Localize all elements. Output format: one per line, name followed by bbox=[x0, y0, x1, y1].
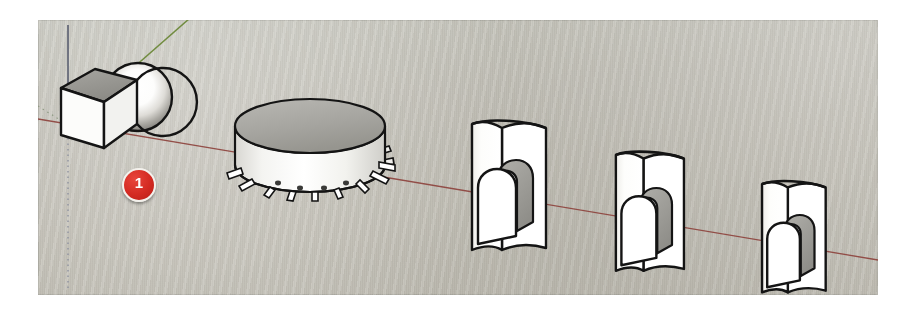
model-cube-with-sphere[interactable] bbox=[61, 63, 197, 148]
model-arch-wall-1[interactable] bbox=[472, 121, 546, 250]
callout-badge-1[interactable]: 1 bbox=[122, 168, 156, 202]
red-axis bbox=[38, 119, 878, 260]
axes-group bbox=[38, 20, 878, 292]
model-arch-wall-2[interactable] bbox=[616, 152, 684, 271]
sketchup-viewport[interactable]: 1 bbox=[38, 20, 878, 295]
arch-front-face[interactable] bbox=[767, 223, 800, 287]
sketchup-figure: 1 bbox=[0, 0, 900, 318]
model-cylinder-with-pegs[interactable] bbox=[227, 99, 395, 201]
cylinder-top-face[interactable] bbox=[235, 99, 385, 153]
model-scene[interactable] bbox=[38, 20, 878, 295]
arch-front-face[interactable] bbox=[621, 196, 656, 265]
arch-front-face[interactable] bbox=[478, 169, 516, 244]
model-arch-wall-3[interactable] bbox=[762, 181, 826, 292]
